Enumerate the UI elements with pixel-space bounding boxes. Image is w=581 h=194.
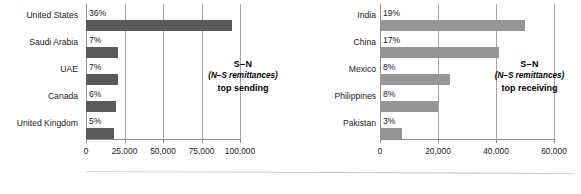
x-axis-tick — [202, 139, 203, 143]
x-axis-tick-label: 40,000 — [466, 146, 526, 156]
x-axis-tick — [496, 139, 497, 143]
category-label: United Kingdom — [0, 118, 78, 128]
bar — [86, 74, 118, 85]
bar — [86, 101, 116, 112]
x-axis-tick — [86, 139, 87, 143]
chart-top-sending: United StatesSaudi ArabiaUAECanadaUnited… — [0, 0, 290, 170]
x-axis-tick — [380, 139, 381, 143]
category-label: India — [290, 10, 376, 20]
bar-data-label: 7% — [89, 36, 101, 45]
bar-data-label: 19% — [383, 9, 400, 18]
annotation-line3: top receiving — [478, 82, 581, 94]
bar-data-label: 8% — [383, 63, 395, 72]
bar-data-label: 8% — [383, 90, 395, 99]
x-axis-tick — [438, 139, 439, 143]
chart-top-receiving: IndiaChinaMexicoPhilippinesPakistan 020,… — [290, 0, 581, 170]
category-axis-labels-left: United StatesSaudi ArabiaUAECanadaUnited… — [0, 0, 78, 140]
bar — [86, 128, 114, 139]
bar — [380, 20, 525, 31]
category-label: Pakistan — [290, 118, 376, 128]
category-axis-labels-right: IndiaChinaMexicoPhilippinesPakistan — [290, 0, 376, 140]
bar — [86, 47, 118, 58]
bar-data-label: 17% — [383, 36, 400, 45]
category-label: United States — [0, 10, 78, 20]
x-axis-tick — [163, 139, 164, 143]
category-label: UAE — [0, 64, 78, 74]
footer-divider-rule — [86, 171, 575, 174]
annotation-line2: (N–S remittances) — [478, 70, 581, 82]
x-axis-tick — [240, 139, 241, 143]
category-label: Philippines — [290, 91, 376, 101]
x-axis-tick — [554, 139, 555, 143]
annotation-top-sending: S–N (N–S remittances) top sending — [196, 58, 290, 94]
bar — [380, 47, 499, 58]
bar — [380, 101, 438, 112]
category-label: Mexico — [290, 64, 376, 74]
bar-data-label: 36% — [89, 9, 106, 18]
x-axis-tick-label: 0 — [350, 146, 410, 156]
bar — [380, 128, 402, 139]
bar-data-label: 6% — [89, 90, 101, 99]
bar-data-label: 3% — [383, 117, 395, 126]
annotation-line1: S–N — [478, 58, 581, 70]
annotation-line2: (N–S remittances) — [196, 70, 290, 82]
category-label: China — [290, 37, 376, 47]
x-axis-tick — [125, 139, 126, 143]
x-axis-line-right — [380, 139, 554, 140]
x-axis-tick-label: 60,000 — [524, 146, 581, 156]
annotation-line3: top sending — [196, 82, 290, 94]
annotation-line1: S–N — [196, 58, 290, 70]
bar-data-label: 7% — [89, 63, 101, 72]
bar — [380, 74, 450, 85]
annotation-top-receiving: S–N (N–S remittances) top receiving — [478, 58, 581, 94]
bar — [86, 20, 232, 31]
x-axis-tick-label: 20,000 — [408, 146, 468, 156]
category-label: Canada — [0, 91, 78, 101]
bar-data-label: 5% — [89, 117, 101, 126]
x-axis-tick-label: 100,000 — [210, 146, 270, 156]
category-label: Saudi Arabia — [0, 37, 78, 47]
